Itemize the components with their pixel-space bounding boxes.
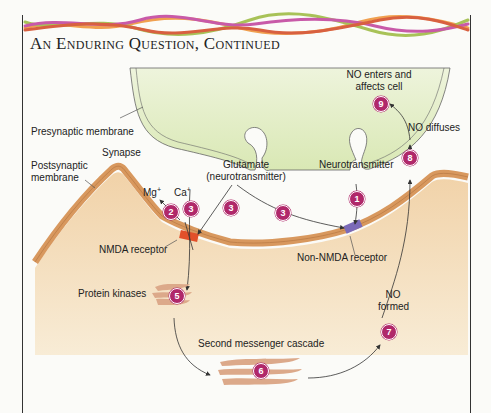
braid-decoration: [25, 14, 468, 36]
label-presynaptic-membrane: Presynaptic membrane: [31, 126, 134, 138]
label-no-diffuses: NO diffuses: [408, 122, 460, 134]
step-badge-3a: 3: [223, 200, 239, 216]
step-badge-5: 5: [169, 288, 185, 304]
label-ca-ion: Ca+: [174, 184, 191, 199]
step-badge-1: 1: [349, 191, 365, 207]
step-badge-9: 9: [373, 96, 389, 112]
label-no-enters: NO enters and affects cell: [334, 69, 424, 93]
step-badge-6: 6: [253, 363, 269, 379]
step-badge-2: 2: [163, 204, 179, 220]
label-no-formed: NO formed: [378, 289, 408, 313]
non-nmda-receptor-shape: [345, 223, 361, 230]
step-badge-3a: 3: [183, 201, 199, 217]
label-synapse: Synapse: [102, 147, 141, 159]
page-title: An Enduring Question, Continued: [30, 34, 280, 54]
label-postsynaptic-membrane: Postsynaptic membrane: [31, 160, 88, 184]
synapse-diagram: [0, 0, 491, 413]
label-protein-kinases: Protein kinases: [78, 288, 146, 300]
label-mg-ion: Mg+: [143, 184, 161, 199]
label-nmda-receptor: NMDA receptor: [99, 244, 167, 256]
label-second-messenger: Second messenger cascade: [198, 338, 324, 350]
label-glutamate: Glutamate (neurotransmitter): [196, 159, 296, 183]
label-non-nmda-receptor: Non-NMDA receptor: [297, 252, 387, 264]
step-badge-7: 7: [381, 324, 397, 340]
step-badge-8: 8: [402, 150, 418, 166]
label-neurotransmitter: Neurotransmitter: [319, 159, 393, 171]
step-badge-3b: 3: [275, 205, 291, 221]
